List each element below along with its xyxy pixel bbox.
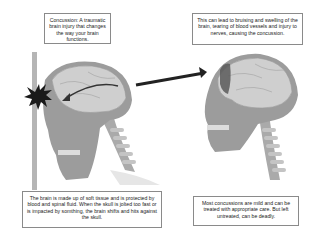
wall-bar [32, 52, 37, 190]
outcome-caption: Most concussions are mild and can be tre… [193, 196, 299, 226]
transition-arrow-head-icon [199, 67, 207, 78]
left-figure [24, 52, 160, 190]
transition-arrow-line [136, 73, 204, 85]
mechanism-caption: The brain is made up of soft tissue and … [22, 191, 162, 228]
effects-caption: This can lead to bruising and swelling o… [192, 13, 303, 45]
teeth [58, 150, 80, 155]
right-figure [205, 54, 298, 180]
definition-caption: Concussion: A traumatic brain injury tha… [44, 13, 111, 44]
